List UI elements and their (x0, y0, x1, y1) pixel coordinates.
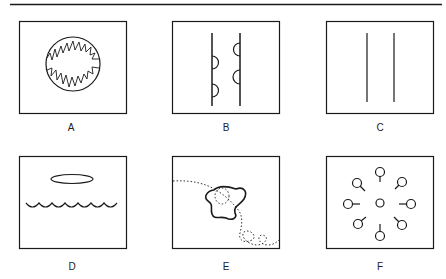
panel-f-circle-w (344, 200, 353, 209)
panel-d-label: D (68, 261, 75, 272)
panel-c (327, 22, 434, 114)
panel-e-label: E (223, 261, 230, 272)
panel-a-frame (20, 22, 127, 114)
panel-e-dotted-track (173, 181, 279, 245)
panel-c-frame (327, 22, 434, 114)
panel-f-tail-ne (395, 185, 399, 189)
panel-f (327, 157, 434, 249)
panel-a-label: A (68, 122, 75, 133)
panel-f-circle-s (376, 232, 385, 241)
figure-canvas: A B C D E (0, 0, 446, 279)
panel-b-bulge-right-1 (234, 43, 241, 56)
panel-f-circle-e (407, 200, 416, 209)
panel-f-tail-nw (360, 186, 365, 191)
panel-b-bulge-left-1 (212, 56, 219, 69)
panel-b-frame (173, 22, 280, 114)
panel-f-tail-sw (361, 217, 366, 221)
panel-d (20, 157, 127, 249)
panel-e (173, 157, 280, 249)
panel-d-scalloped-line (26, 203, 117, 207)
panel-b-label: B (223, 122, 230, 133)
panel-f-label: F (377, 261, 383, 272)
panel-c-label: C (376, 122, 383, 133)
panel-d-ellipse (51, 175, 93, 184)
panel-b-bulge-left-2 (212, 84, 219, 97)
panel-a-circle (46, 37, 100, 91)
panel-a (20, 22, 127, 114)
panel-f-tail-se (394, 217, 399, 222)
panel-f-frame (327, 157, 434, 249)
panel-b-bulge-right-2 (233, 70, 240, 84)
panel-f-center-circle (376, 199, 384, 207)
panel-b (173, 22, 280, 114)
panel-f-circle-n (376, 168, 385, 177)
panel-d-frame (20, 157, 127, 249)
